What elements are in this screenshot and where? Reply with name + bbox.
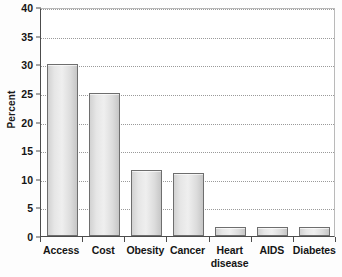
category-label-cost: Cost xyxy=(82,244,124,257)
y-tick-label: 40 xyxy=(7,2,33,14)
bar-access xyxy=(47,64,78,236)
category-label-line: Diabetes xyxy=(293,244,336,256)
y-tick-label: 10 xyxy=(7,174,33,186)
x-tick-mark xyxy=(166,237,167,242)
x-tick-mark xyxy=(82,237,83,242)
x-tick-mark xyxy=(40,237,41,242)
bar-obesity xyxy=(131,170,162,236)
y-tick-label: 15 xyxy=(7,145,33,157)
category-label-cancer: Cancer xyxy=(166,244,208,257)
gridline xyxy=(41,152,334,153)
y-tick-label: 25 xyxy=(7,88,33,100)
gridline xyxy=(41,124,334,125)
category-label-heart-disease: Heartdisease xyxy=(209,244,251,269)
y-tick-label: 30 xyxy=(7,59,33,71)
bar-diabetes xyxy=(299,227,330,236)
category-label-aids: AIDS xyxy=(251,244,293,257)
bar-heart-disease xyxy=(215,227,246,236)
x-tick-mark xyxy=(293,237,294,242)
gridline xyxy=(41,95,334,96)
category-label-access: Access xyxy=(40,244,82,257)
y-tick-label: 20 xyxy=(7,117,33,129)
bar-chart-figure: Percent 0510152025303540 AccessCostObesi… xyxy=(0,0,342,277)
category-label-line: Cancer xyxy=(170,244,205,256)
bar-cancer xyxy=(173,173,204,236)
x-tick-mark xyxy=(209,237,210,242)
bar-aids xyxy=(257,227,288,236)
y-tick-label: 5 xyxy=(7,202,33,214)
category-label-diabetes: Diabetes xyxy=(293,244,335,257)
bar-cost xyxy=(89,93,120,236)
gridline xyxy=(41,66,334,67)
x-tick-mark xyxy=(251,237,252,242)
category-label-line: Access xyxy=(43,244,79,256)
category-label-line: AIDS xyxy=(259,244,284,256)
plot-area xyxy=(40,8,335,237)
category-label-obesity: Obesity xyxy=(124,244,166,257)
category-label-line: Cost xyxy=(92,244,115,256)
category-label-line: disease xyxy=(209,257,251,270)
gridline xyxy=(41,38,334,39)
x-tick-mark xyxy=(124,237,125,242)
gridline xyxy=(41,9,334,10)
category-label-line: Heart xyxy=(216,244,242,256)
y-tick-label: 0 xyxy=(7,231,33,243)
category-label-line: Obesity xyxy=(126,244,164,256)
y-tick-label: 35 xyxy=(7,31,33,43)
x-tick-mark xyxy=(335,237,336,242)
